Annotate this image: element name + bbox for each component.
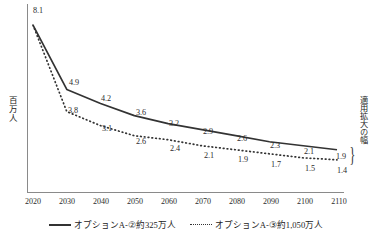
series-a-line [33, 25, 337, 150]
x-tick-2070: 2070 [195, 196, 211, 207]
x-tick-2050: 2050 [127, 196, 143, 207]
data-label-b-2030: 3.8 [68, 106, 78, 115]
data-label-a-2060: 3.2 [169, 119, 179, 128]
data-label-b-2050: 2.6 [136, 137, 146, 146]
legend-item-option-a3[interactable]: オプションA-③約1,050万人 [190, 220, 323, 230]
legend-label-option-a2: オプションA-②約325万人 [74, 220, 176, 230]
chart-legend: オプションA-②約325万人 オプションA-③約1,050万人 [0, 216, 372, 234]
x-tick-2040: 2040 [93, 196, 109, 207]
range-brace: } [349, 143, 355, 165]
data-label-b-2060: 2.4 [170, 144, 180, 153]
line-chart: 百万人 8.1 4.9 4.2 3.6 3.2 2.9 2.6 2.3 2.1 … [0, 0, 372, 234]
data-label-a-2090: 2.3 [270, 141, 280, 150]
data-label-a-2080: 2.6 [237, 134, 247, 143]
data-label-b-2090: 1.7 [271, 160, 281, 169]
data-label-a-2030: 4.9 [69, 78, 79, 87]
data-label-b-2040: 3.1 [102, 124, 112, 133]
data-label-a-2040: 4.2 [101, 94, 111, 103]
data-label-a-2110: 1.9 [336, 152, 346, 161]
dotted-line-icon [190, 221, 212, 229]
series-b-line [33, 25, 337, 160]
data-label-b-2110: 1.4 [337, 166, 347, 175]
x-tick-2090: 2090 [263, 196, 279, 207]
x-tick-2100: 2100 [297, 196, 313, 207]
x-axis-ticks: 2020 2030 2040 2050 2060 2070 2080 2090 … [27, 196, 344, 210]
x-tick-2080: 2080 [229, 196, 245, 207]
x-tick-2020: 2020 [25, 196, 41, 207]
legend-item-option-a2[interactable]: オプションA-②約325万人 [49, 220, 176, 230]
data-label-a-2100: 2.1 [304, 147, 314, 156]
x-tick-2030: 2030 [59, 196, 75, 207]
range-of-expansion-annotation: 適用拡大の幅 [354, 96, 367, 144]
data-label-b-2070: 2.1 [204, 151, 214, 160]
data-label-a-2050: 3.6 [136, 108, 146, 117]
data-label-b-2100: 1.5 [305, 164, 315, 173]
data-label-a-2070: 2.9 [203, 127, 213, 136]
x-tick-2110: 2110 [331, 196, 347, 207]
data-label-b-2080: 1.9 [238, 155, 248, 164]
data-label-a-2020: 8.1 [33, 6, 43, 15]
x-tick-2060: 2060 [161, 196, 177, 207]
legend-label-option-a3: オプションA-③約1,050万人 [215, 220, 323, 230]
solid-line-icon [49, 221, 71, 229]
